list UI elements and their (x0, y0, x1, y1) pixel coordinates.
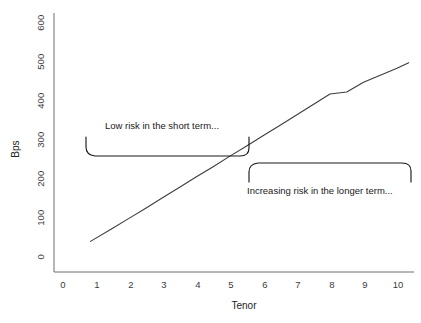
y-tick-400: 400 (36, 89, 46, 113)
x-tick-7: 7 (291, 280, 305, 290)
annotation-short-term: Low risk in the short term... (105, 121, 219, 131)
x-axis-title: Tenor (209, 301, 279, 311)
x-tick-2: 2 (124, 280, 138, 290)
chart-figure: 600 500 400 300 200 100 0 Bps 0 1 2 3 4 … (0, 0, 421, 323)
y-tick-100: 100 (36, 206, 46, 230)
bracket-short-term (86, 137, 249, 156)
y-tick-300: 300 (36, 128, 46, 152)
y-tick-200: 200 (36, 167, 46, 191)
bracket-long-term (249, 163, 411, 182)
chart-plot-area (0, 0, 421, 323)
y-tick-0: 0 (36, 245, 46, 269)
x-tick-1: 1 (90, 280, 104, 290)
x-tick-5: 5 (224, 280, 238, 290)
x-tick-4: 4 (191, 280, 205, 290)
y-tick-600: 600 (36, 11, 46, 35)
x-tick-8: 8 (325, 280, 339, 290)
x-tick-6: 6 (258, 280, 272, 290)
x-tick-9: 9 (358, 280, 372, 290)
y-axis-title: Bps (11, 129, 21, 169)
x-tick-10: 10 (389, 280, 407, 290)
spread-curve (90, 63, 408, 242)
x-tick-0: 0 (56, 280, 70, 290)
y-tick-500: 500 (36, 50, 46, 74)
x-tick-3: 3 (157, 280, 171, 290)
annotation-long-term: Increasing risk in the longer term... (247, 186, 393, 196)
